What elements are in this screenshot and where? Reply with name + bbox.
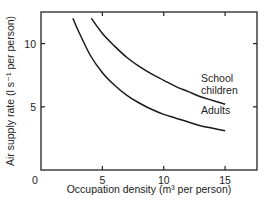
series-label: School <box>201 72 233 84</box>
y-tick-label: 10 <box>24 38 36 50</box>
y-axis-label: Air supply rate (l s⁻¹ per person) <box>4 16 16 166</box>
x-axis-label: Occupation density (m³ per person) <box>67 183 232 195</box>
y-tick-label: 5 <box>30 101 36 113</box>
chart: 051015510 SchoolchildrenAdults Occupatio… <box>0 0 272 206</box>
x-tick-label: 0 <box>32 174 38 186</box>
curve-labels: SchoolchildrenAdults <box>201 72 238 116</box>
series-label: Adults <box>201 104 230 116</box>
series-label: children <box>201 84 238 96</box>
